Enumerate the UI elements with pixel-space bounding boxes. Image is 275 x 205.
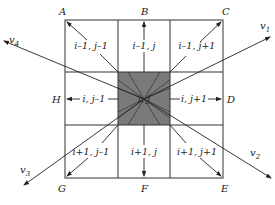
cell-top-center: i–1, j bbox=[133, 40, 156, 51]
v4-label: v4 bbox=[9, 34, 19, 48]
v3-vector bbox=[24, 99, 144, 185]
label-G: G bbox=[58, 183, 66, 194]
cell-center: i, j bbox=[138, 93, 150, 104]
cell-top-left: i–1, j–1 bbox=[74, 40, 108, 51]
v2-vector bbox=[144, 99, 271, 178]
label-B: B bbox=[140, 6, 148, 17]
cell-top-right: i–1, j+1 bbox=[179, 40, 216, 51]
label-F: F bbox=[140, 183, 149, 194]
v2-label: v2 bbox=[250, 147, 261, 161]
cell-bottom-left: i+1, j–1 bbox=[73, 146, 110, 157]
cell-bottom-center: i+1, j bbox=[131, 146, 157, 157]
v3-label: v3 bbox=[20, 164, 31, 178]
label-C: C bbox=[222, 6, 230, 17]
cell-middle-left: i, j–1 bbox=[83, 93, 106, 104]
label-A: A bbox=[58, 6, 66, 17]
label-E: E bbox=[220, 183, 229, 194]
cell-middle-right: i, j+1 bbox=[181, 93, 207, 104]
neighborhood-flow-diagram: A B C D E F G H i–1, j–1 i–1, j i–1, j+1… bbox=[0, 0, 275, 205]
label-H: H bbox=[51, 94, 61, 105]
v1-label: v1 bbox=[260, 20, 270, 34]
cell-bottom-right: i+1, j+1 bbox=[177, 146, 217, 157]
label-D: D bbox=[226, 94, 235, 105]
